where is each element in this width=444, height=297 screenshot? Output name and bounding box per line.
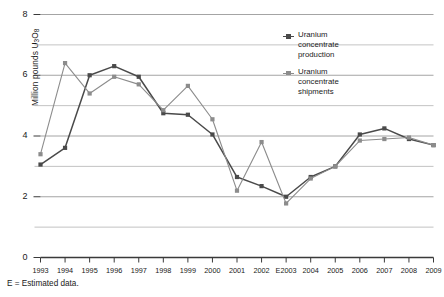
data-point-marker — [210, 117, 214, 121]
y-tick-label: 6 — [12, 70, 28, 79]
legend-marker-production-icon — [283, 31, 294, 42]
y-tick-label: 2 — [12, 192, 28, 201]
data-point-marker — [358, 138, 362, 142]
data-point-marker — [186, 84, 190, 88]
legend-square-marker — [286, 34, 290, 38]
legend-marker-shipments-icon — [283, 68, 294, 79]
data-point-marker — [431, 143, 435, 147]
y-tick-label: 4 — [12, 131, 28, 140]
legend-square-marker — [286, 71, 290, 75]
y-tick-label: 0 — [12, 253, 28, 262]
data-point-marker — [210, 132, 214, 136]
data-point-marker — [407, 135, 411, 139]
data-point-marker — [235, 189, 239, 193]
data-point-marker — [284, 195, 288, 199]
data-point-marker — [284, 201, 288, 205]
data-point-marker — [88, 73, 92, 77]
data-point-marker — [161, 108, 165, 112]
data-point-marker — [38, 162, 42, 166]
data-point-marker — [63, 146, 67, 150]
data-point-marker — [382, 126, 386, 130]
legend-label-production: Uranium concentrate production — [298, 30, 339, 61]
chart-legend: Uranium concentrate production Uranium c… — [283, 30, 413, 103]
data-point-marker — [38, 152, 42, 156]
legend-item-production: Uranium concentrate production — [283, 30, 413, 61]
data-point-marker — [137, 82, 141, 86]
data-point-marker — [112, 75, 116, 79]
data-point-marker — [358, 132, 362, 136]
data-point-marker — [309, 176, 313, 180]
data-point-marker — [63, 61, 67, 65]
data-point-marker — [333, 164, 337, 168]
footnote: E = Estimated data. — [7, 279, 79, 288]
data-point-marker — [112, 64, 116, 68]
data-point-marker — [382, 137, 386, 141]
chart-container: Million pounds U3O8 02468 19931994199519… — [0, 0, 444, 297]
x-tick-label: 2009 — [419, 267, 444, 274]
data-point-marker — [137, 75, 141, 79]
data-point-marker — [259, 140, 263, 144]
y-tick-label: 8 — [12, 10, 28, 19]
data-point-marker — [88, 91, 92, 95]
data-point-marker — [235, 175, 239, 179]
legend-item-shipments: Uranium concentrate shipments — [283, 67, 413, 98]
data-point-marker — [259, 184, 263, 188]
legend-label-shipments: Uranium concentrate shipments — [298, 67, 339, 98]
data-point-marker — [186, 113, 190, 117]
